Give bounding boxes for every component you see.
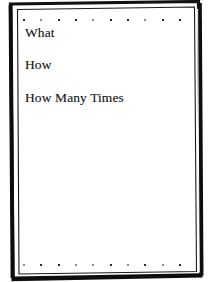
frame-left-gap-highlight	[15, 10, 17, 272]
text-block: What How How Many Times	[25, 25, 185, 105]
guide-dot	[40, 19, 42, 21]
guide-dot	[75, 19, 77, 21]
text-line-how-many-times: How Many Times	[25, 90, 185, 105]
guide-dot	[127, 264, 129, 266]
frame-right-heavy-stroke	[200, 3, 202, 276]
guide-dot	[162, 19, 164, 21]
text-line-what: What	[25, 25, 185, 40]
guide-dot	[40, 264, 42, 266]
guide-dot	[110, 19, 112, 21]
guide-dot	[23, 264, 25, 266]
guide-dot	[58, 19, 60, 21]
guide-dot	[127, 19, 129, 21]
guide-dot	[58, 264, 60, 266]
bottom-dot-row	[23, 263, 181, 267]
guide-dot	[144, 19, 146, 21]
top-dot-row	[23, 18, 181, 22]
guide-dot	[75, 264, 77, 266]
guide-dot	[162, 264, 164, 266]
guide-dot	[23, 19, 25, 21]
document-page: What How How Many Times	[0, 0, 209, 282]
guide-dot	[179, 19, 181, 21]
guide-dot	[179, 264, 181, 266]
guide-dot	[92, 19, 94, 21]
frame-right-gap-highlight	[198, 9, 200, 272]
guide-dot	[92, 264, 94, 266]
frame-bottom-heavy-stroke	[14, 275, 201, 278]
guide-dot	[110, 264, 112, 266]
frame-left-heavy-stroke	[11, 5, 13, 278]
text-line-how: How	[25, 57, 185, 72]
guide-dot	[144, 264, 146, 266]
